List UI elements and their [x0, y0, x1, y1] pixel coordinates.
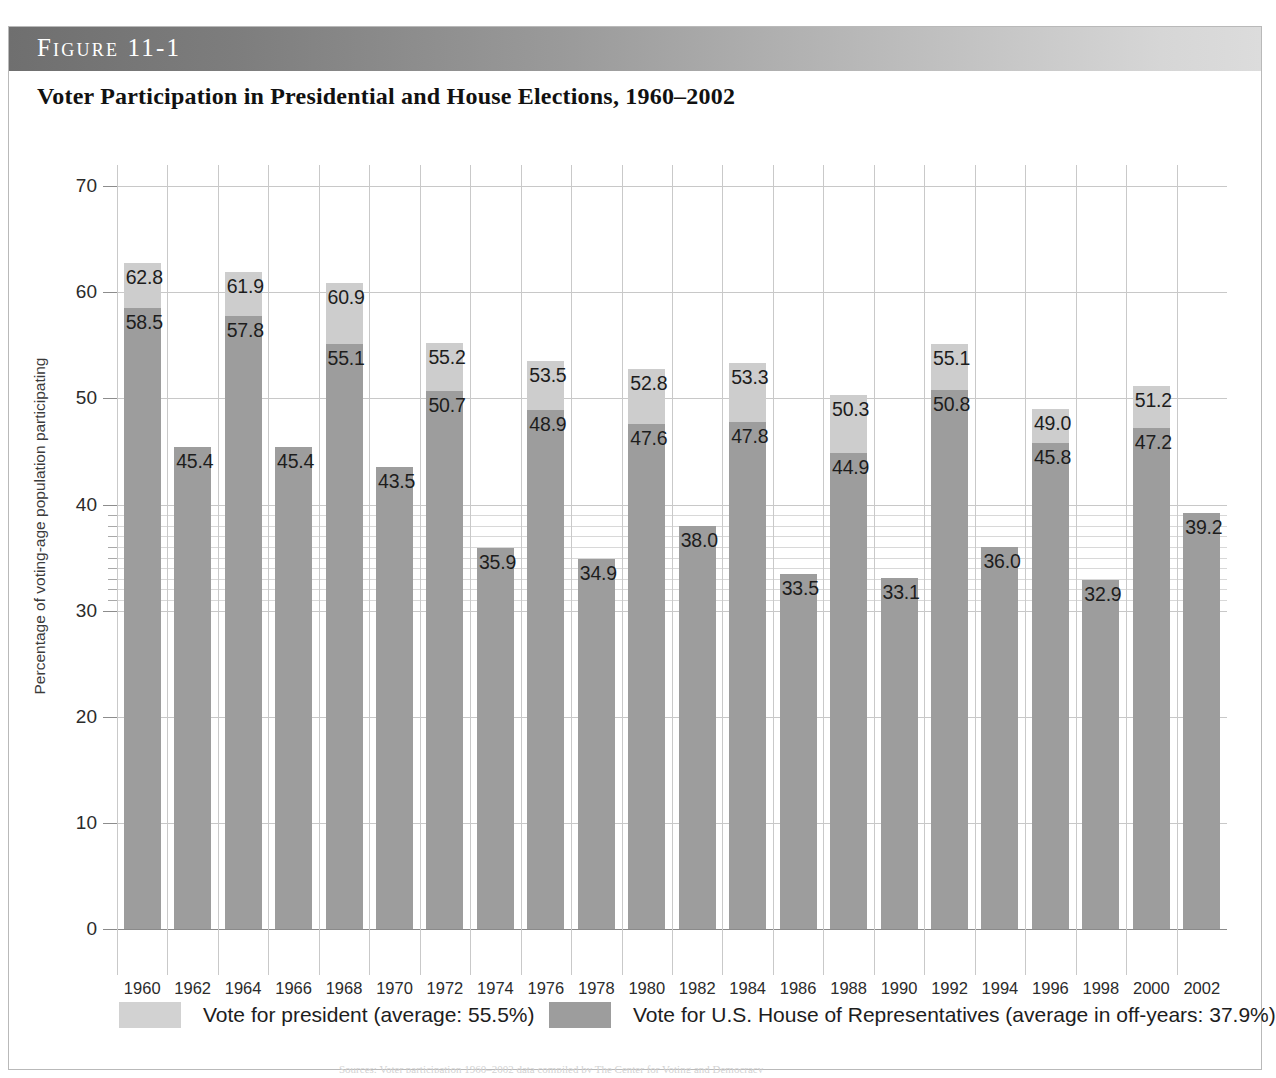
gridline-vertical [1025, 165, 1026, 975]
bar-segment-house[interactable] [174, 447, 211, 929]
bar-segment-house[interactable] [628, 424, 665, 929]
x-tick-label: 1962 [174, 979, 211, 998]
bar-column[interactable] [1133, 165, 1170, 929]
x-tick-label: 1980 [628, 979, 665, 998]
bar-segment-house[interactable] [326, 344, 363, 929]
bar-column[interactable] [275, 165, 312, 929]
y-tick-mark [103, 717, 117, 718]
bar-column[interactable] [527, 165, 564, 929]
bar-column[interactable] [830, 165, 867, 929]
bar-segment-house[interactable] [1082, 580, 1119, 929]
bar-column[interactable] [931, 165, 968, 929]
bar-value-label-president: 49.0 [1034, 412, 1071, 435]
bar-value-label-president: 61.9 [227, 275, 264, 298]
x-tick-label: 1990 [881, 979, 918, 998]
x-tick-label: 2000 [1133, 979, 1170, 998]
x-tick-label: 1972 [427, 979, 464, 998]
bar-value-label-house: 45.4 [176, 450, 213, 473]
bar-value-label-house: 58.5 [126, 311, 163, 334]
gridline-vertical [823, 165, 824, 975]
gridline-vertical [1076, 165, 1077, 975]
chart-plot-area: Percentage of voting-age population part… [9, 27, 1261, 1069]
bar-value-label-president: 62.8 [126, 266, 163, 289]
bar-value-label-president: 51.2 [1135, 389, 1172, 412]
bar-value-label-president: 53.5 [529, 364, 566, 387]
bar-column[interactable] [326, 165, 363, 929]
gridline-vertical [218, 165, 219, 975]
bar-value-label-house: 32.9 [1084, 583, 1121, 606]
y-tick-mark [103, 823, 117, 824]
y-tick-mark [103, 505, 117, 506]
figure-frame: Figure 11-1 Voter Participation in Presi… [8, 26, 1262, 1070]
bar-value-label-president: 52.8 [630, 372, 667, 395]
x-tick-label: 1960 [124, 979, 161, 998]
gridline-vertical [420, 165, 421, 975]
bar-segment-house[interactable] [881, 578, 918, 929]
x-axis-baseline [103, 929, 1227, 930]
bar-column[interactable] [729, 165, 766, 929]
bar-column[interactable] [426, 165, 463, 929]
bar-value-label-house: 36.0 [983, 550, 1020, 573]
y-tick-label: 10 [47, 812, 97, 834]
bar-segment-house[interactable] [931, 390, 968, 929]
bar-column[interactable] [1082, 165, 1119, 929]
bar-value-label-house: 44.9 [832, 456, 869, 479]
bar-segment-house[interactable] [477, 548, 514, 929]
gridline-vertical [874, 165, 875, 975]
x-tick-label: 1970 [376, 979, 413, 998]
bar-column[interactable] [1183, 165, 1220, 929]
bar-column[interactable] [1032, 165, 1069, 929]
bar-value-label-president: 55.2 [428, 346, 465, 369]
x-tick-label: 1984 [729, 979, 766, 998]
bar-column[interactable] [628, 165, 665, 929]
bar-column[interactable] [376, 165, 413, 929]
bar-segment-house[interactable] [830, 453, 867, 929]
bar-value-label-house: 33.1 [883, 581, 920, 604]
bar-column[interactable] [477, 165, 514, 929]
bar-value-label-house: 33.5 [782, 577, 819, 600]
bar-segment-house[interactable] [1032, 443, 1069, 929]
bar-value-label-president: 50.3 [832, 398, 869, 421]
gridline-vertical [975, 165, 976, 975]
bar-segment-house[interactable] [527, 410, 564, 929]
bar-segment-house[interactable] [578, 559, 615, 929]
bar-segment-house[interactable] [426, 391, 463, 929]
y-tick-mark [103, 186, 117, 187]
gridline-vertical [571, 165, 572, 975]
y-tick-label: 60 [47, 281, 97, 303]
bar-segment-house[interactable] [679, 526, 716, 929]
bar-column[interactable] [780, 165, 817, 929]
x-tick-label: 1994 [982, 979, 1019, 998]
bar-segment-house[interactable] [275, 447, 312, 929]
x-tick-label: 1974 [477, 979, 514, 998]
bar-segment-house[interactable] [124, 308, 161, 929]
bar-value-label-house: 50.7 [428, 394, 465, 417]
bar-segment-house[interactable] [1183, 513, 1220, 929]
y-tick-mark-minor [108, 547, 117, 548]
bar-value-label-president: 55.1 [933, 347, 970, 370]
bar-column[interactable] [981, 165, 1018, 929]
bar-value-label-house: 57.8 [227, 319, 264, 342]
x-tick-label: 1988 [830, 979, 867, 998]
gridline-vertical [521, 165, 522, 975]
y-tick-mark [103, 292, 117, 293]
y-tick-label: 40 [47, 494, 97, 516]
gridline-vertical [672, 165, 673, 975]
bar-value-label-house: 47.6 [630, 427, 667, 450]
bar-segment-house[interactable] [981, 547, 1018, 929]
legend-label-president: Vote for president (average: 55.5%) [203, 1003, 535, 1027]
bar-segment-house[interactable] [225, 316, 262, 929]
bar-segment-house[interactable] [376, 467, 413, 929]
bar-segment-house[interactable] [729, 422, 766, 929]
bar-column[interactable] [174, 165, 211, 929]
gridline-vertical [924, 165, 925, 975]
y-tick-mark-minor [108, 536, 117, 537]
y-tick-mark-minor [108, 579, 117, 580]
bar-segment-house[interactable] [780, 574, 817, 929]
bar-column[interactable] [578, 165, 615, 929]
bar-value-label-house: 55.1 [328, 347, 365, 370]
gridline-vertical [1177, 165, 1178, 975]
bar-segment-house[interactable] [1133, 428, 1170, 929]
bar-column[interactable] [881, 165, 918, 929]
legend-swatch-house [549, 1002, 611, 1028]
